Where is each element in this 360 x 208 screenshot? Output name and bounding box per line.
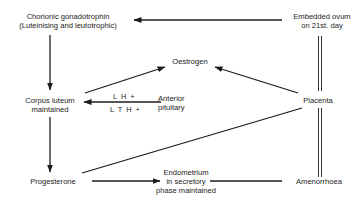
node-chorionic-line1: Chorionic gonadotrophin: [4, 12, 132, 21]
node-pituitary-line2: pituitary: [158, 103, 202, 112]
node-amenorrhoea: Amenorrhoea: [286, 177, 352, 186]
edge-label-lth: L T H +: [110, 105, 141, 114]
node-oestrogen: Oestrogen: [160, 57, 220, 66]
node-progesterone-line1: Progesterone: [18, 177, 88, 186]
node-placenta: Placenta: [290, 96, 346, 105]
node-amenorrhoea-line1: Amenorrhoea: [286, 177, 352, 186]
node-oestrogen-line1: Oestrogen: [160, 57, 220, 66]
node-embedded-line2: on 21st. day: [284, 21, 360, 30]
node-progesterone: Progesterone: [18, 177, 88, 186]
edge-corpus-to-oestrogen: [85, 67, 165, 93]
node-endometrium-line2: in secretory: [148, 177, 224, 186]
node-embedded-line1: Embedded ovum: [284, 12, 360, 21]
node-embedded-ovum: Embedded ovum on 21st. day: [284, 12, 360, 30]
node-chorionic-gonadotrophin: Chorionic gonadotrophin (Luteinising and…: [4, 12, 132, 30]
node-placenta-line1: Placenta: [290, 96, 346, 105]
node-corpus-line1: Corpus luteum: [14, 96, 86, 105]
node-pituitary-line1: Anterior: [158, 94, 202, 103]
node-chorionic-line2: (Luteinising and leutotrophic): [4, 21, 132, 30]
node-endometrium-line3: phase maintained: [148, 186, 224, 195]
hormone-flow-diagram: Chorionic gonadotrophin (Luteinising and…: [0, 0, 360, 208]
node-corpus-luteum: Corpus luteum maintained: [14, 96, 86, 114]
node-endometrium-line1: Endometrium: [148, 168, 224, 177]
node-endometrium: Endometrium in secretory phase maintaine…: [148, 168, 224, 195]
node-corpus-line2: maintained: [14, 105, 86, 114]
edge-placenta-to-oestrogen: [215, 67, 298, 93]
edge-placenta-to-progesterone: [82, 108, 302, 173]
node-anterior-pituitary: Anterior pituitary: [158, 94, 202, 112]
edge-label-lh: L H +: [113, 92, 136, 101]
